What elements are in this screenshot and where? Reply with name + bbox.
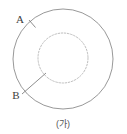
outer-circle bbox=[13, 9, 113, 109]
leader-line-a bbox=[29, 20, 36, 28]
concentric-circles-diagram: A B (가) bbox=[0, 0, 127, 134]
figure-container: A B (가) bbox=[0, 0, 127, 134]
figure-caption: (가) bbox=[56, 119, 70, 129]
label-a: A bbox=[16, 13, 24, 25]
leader-line-b bbox=[22, 73, 46, 94]
label-b: B bbox=[12, 89, 19, 101]
inner-dashed-circle bbox=[38, 33, 88, 83]
